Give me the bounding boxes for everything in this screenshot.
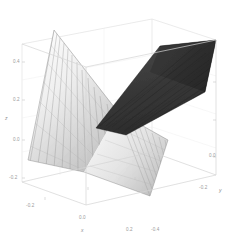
x-tick-label-0: -0.2	[26, 204, 34, 209]
z-axis-label: z	[5, 116, 8, 121]
y-tick-label-0: 0.0	[209, 154, 216, 159]
y-tick-label-1: -0.2	[199, 186, 207, 191]
dark-plane-surface	[96, 40, 216, 135]
x-tick-label-2: 0.2	[126, 228, 133, 233]
z-tick-label-0: 0.4	[13, 60, 20, 65]
x-tick-label-1: 0.0	[79, 216, 86, 221]
surface-plot-figure: 0.4 0.2 0.0 -0.2 z -0.2 0.0 0.2 x 0.0 -0…	[0, 0, 228, 245]
z-tick-label-3: -0.2	[9, 176, 17, 181]
z-tick-label-2: 0.0	[13, 138, 20, 143]
y-axis-label: y	[219, 188, 222, 193]
x-axis-label: x	[81, 228, 84, 233]
z-tick-label-1: 0.2	[13, 98, 20, 103]
y-tick-label-2: -0.4	[151, 228, 159, 233]
